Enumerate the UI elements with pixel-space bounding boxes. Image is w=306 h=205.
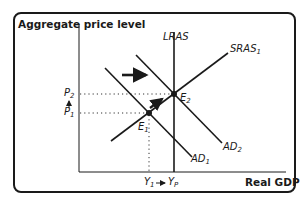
x-axis-label: Real GDP	[245, 176, 300, 188]
ad-as-diagram	[0, 0, 306, 205]
y-axis-label: Aggregate price level	[18, 18, 76, 30]
sras1-label: SRAS1	[230, 43, 261, 56]
e1-point	[146, 110, 152, 116]
yp-label: YP	[168, 176, 178, 189]
y1-label: Y1	[144, 176, 155, 189]
ad2-label: AD2	[223, 141, 242, 154]
p2-label: P2	[64, 87, 75, 100]
sras1-curve	[111, 53, 228, 141]
e1-label: E1	[138, 121, 149, 134]
ad1-label: AD1	[191, 153, 210, 166]
lras-label: LRAS	[163, 31, 189, 42]
e2-point	[171, 91, 177, 97]
e2-label: E2	[180, 92, 191, 105]
p1-label: P1	[64, 106, 75, 119]
